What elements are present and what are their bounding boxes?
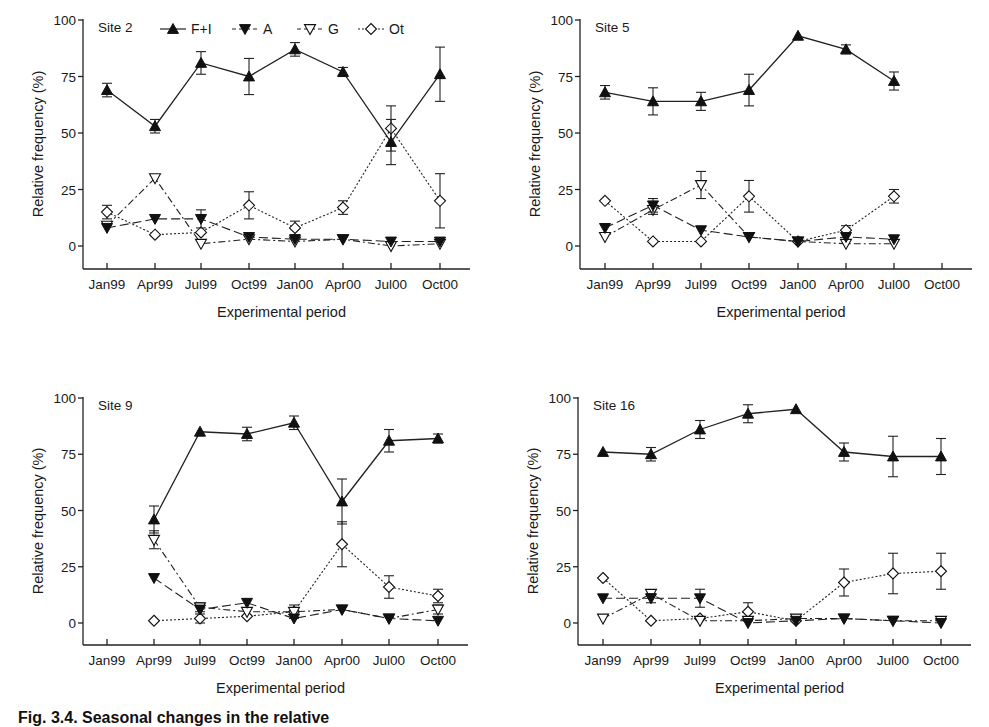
x-tick-label: Jul00 [878, 277, 910, 292]
x-tick-label: Oct00 [422, 277, 458, 292]
x-tick-label: Oct99 [731, 277, 767, 292]
site-label: Site 16 [593, 398, 635, 413]
x-tick-label: Jul00 [373, 653, 405, 668]
x-tick-label: Jan99 [585, 653, 622, 668]
y-tick-label: 75 [61, 70, 76, 85]
x-tick-label: Jul00 [375, 277, 407, 292]
x-tick-label: Jan99 [89, 653, 126, 668]
x-tick-label: Jan99 [587, 277, 624, 292]
x-tick-label: Oct99 [229, 653, 265, 668]
data-point-marker [598, 614, 609, 624]
data-point-marker [433, 591, 444, 602]
series-a [149, 574, 444, 627]
series-line [603, 409, 941, 456]
y-tick-label: 0 [68, 616, 76, 631]
x-tick-label: Jul99 [685, 277, 717, 292]
data-point-marker [196, 57, 207, 67]
chart-panel-site16: 0255075100Jan99Apr99Jul99Oct99Jan00Apr00… [525, 391, 971, 696]
chart-panel-site5: 0255075100Jan99Apr99Jul99Oct99Jan00Apr00… [527, 13, 972, 320]
y-tick-label: 75 [556, 447, 571, 462]
x-axis-title: Experimental period [217, 304, 346, 320]
chart-panel-site9: 0255075100Jan99Apr99Jul99Oct99Jan00Apr00… [30, 391, 468, 696]
data-point-marker [435, 195, 446, 206]
y-tick-label: 75 [558, 70, 573, 85]
data-point-marker [791, 404, 802, 414]
legend-label: A [263, 21, 273, 37]
x-tick-label: Jan99 [89, 277, 126, 292]
legend-label: G [328, 21, 339, 37]
x-tick-label: Oct00 [420, 653, 456, 668]
x-tick-label: Oct99 [231, 277, 267, 292]
data-point-marker [149, 574, 160, 584]
data-point-marker [696, 181, 707, 191]
series-fi [598, 404, 947, 477]
data-point-marker [102, 224, 113, 234]
x-tick-label: Jan00 [780, 277, 817, 292]
x-tick-label: Oct99 [730, 653, 766, 668]
data-point-marker [695, 424, 706, 434]
chart-panel-site2: 0255075100Jan99Apr99Jul99Oct99Jan00Apr00… [30, 13, 470, 320]
x-tick-label: Apr00 [826, 653, 862, 668]
data-point-marker [888, 568, 899, 579]
data-point-marker [149, 615, 160, 626]
series-fi [149, 416, 444, 533]
x-tick-label: Apr99 [137, 277, 173, 292]
data-point-marker [196, 239, 207, 249]
x-tick-label: Oct00 [924, 277, 960, 292]
y-axis-title: Relative frequency (%) [525, 448, 541, 595]
data-point-marker [695, 616, 706, 626]
data-point-marker [600, 87, 611, 97]
series-line [154, 423, 438, 520]
y-tick-label: 100 [548, 391, 571, 406]
x-tick-label: Jul00 [877, 653, 909, 668]
data-point-marker [244, 200, 255, 211]
data-point-marker [386, 137, 397, 147]
y-tick-label: 25 [558, 183, 573, 198]
x-axis-title: Experimental period [715, 680, 844, 696]
data-point-marker [290, 222, 301, 233]
y-tick-label: 50 [61, 126, 76, 141]
data-point-marker [196, 227, 207, 238]
data-point-marker [598, 447, 609, 457]
data-point-marker [889, 76, 900, 86]
x-axis-title: Experimental period [717, 304, 846, 320]
data-point-marker [936, 619, 947, 629]
x-tick-label: Oct00 [923, 653, 959, 668]
data-point-marker [435, 69, 446, 79]
x-tick-label: Jul99 [185, 277, 217, 292]
data-point-marker [743, 606, 754, 617]
x-axis-title: Experimental period [216, 680, 345, 696]
data-point-marker [149, 514, 160, 524]
y-tick-label: 100 [550, 13, 573, 28]
y-axis-title: Relative frequency (%) [527, 71, 543, 218]
y-tick-label: 100 [53, 391, 76, 406]
x-tick-label: Jul99 [684, 653, 716, 668]
data-point-marker [150, 229, 161, 240]
x-tick-label: Jan00 [277, 277, 314, 292]
y-tick-label: 50 [61, 504, 76, 519]
y-tick-label: 0 [565, 239, 573, 254]
site-label: Site 2 [98, 20, 133, 35]
legend: F+IAGOt [160, 21, 404, 37]
x-tick-label: Apr00 [828, 277, 864, 292]
x-tick-label: Apr99 [633, 653, 669, 668]
legend-marker-icon [366, 24, 377, 35]
x-tick-label: Jan00 [276, 653, 313, 668]
x-tick-label: Apr00 [324, 653, 360, 668]
legend-item-ot: Ot [358, 21, 404, 37]
data-point-marker [289, 417, 300, 427]
data-point-marker [936, 566, 947, 577]
data-point-marker [196, 214, 207, 224]
y-tick-label: 0 [563, 616, 571, 631]
x-tick-label: Apr00 [325, 277, 361, 292]
legend-label: F+I [191, 21, 212, 37]
y-axis-title: Relative frequency (%) [30, 71, 46, 218]
data-point-marker [646, 615, 657, 626]
legend-item-g: G [297, 21, 339, 37]
data-point-marker [889, 191, 900, 202]
series-fi [102, 43, 446, 165]
series-fi [600, 30, 900, 115]
data-point-marker [102, 207, 113, 218]
figure-caption: Fig. 3.4. Seasonal changes in the relati… [18, 709, 329, 727]
